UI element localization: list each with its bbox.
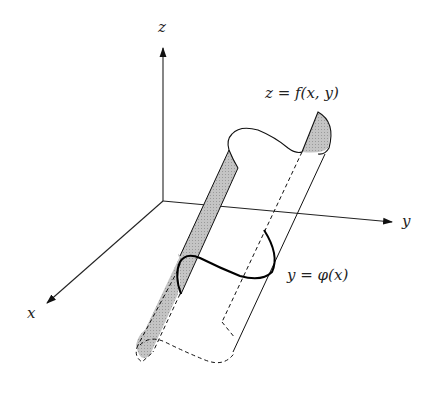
curve-equation-label: y = φ(x) <box>287 268 348 283</box>
x-axis-label: x <box>27 306 35 321</box>
surface-equation-label: z = f(x, y) <box>265 86 339 101</box>
left-strip-upper <box>179 150 238 296</box>
diagram-canvas: z y x z = f(x, y) y = φ(x) <box>0 0 435 402</box>
left-strip-front-edge <box>181 168 238 294</box>
diagram-svg <box>0 0 435 402</box>
y-axis-label: y <box>402 214 410 229</box>
surface-top-edge <box>228 128 302 152</box>
cylinder-right-edge <box>233 154 325 352</box>
x-axis <box>47 201 163 303</box>
cylinder-hidden-corner <box>222 322 235 338</box>
z-axis-label: z <box>158 20 166 35</box>
